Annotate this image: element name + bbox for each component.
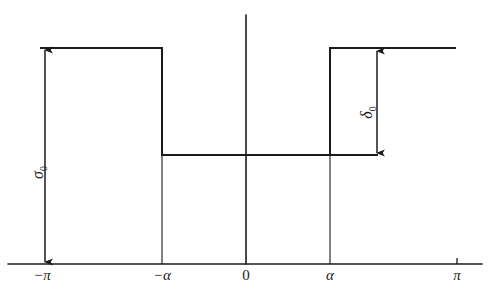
delta-zero-label: δ0	[359, 106, 378, 118]
sigma-zero-subscript: 0	[38, 166, 49, 171]
delta-zero-subscript: 0	[367, 106, 378, 111]
tick-label-minus-pi: −π	[33, 268, 51, 283]
sigma-zero-label: σ0	[30, 166, 49, 179]
sigma-zero-symbol: σ	[29, 171, 46, 179]
tick-label-minus-alpha: −α	[153, 268, 171, 283]
tick-label-alpha: α	[326, 268, 334, 283]
step-function-plot	[0, 0, 490, 297]
tick-label-zero: 0	[242, 268, 250, 283]
tick-label-pi: π	[453, 268, 461, 283]
delta-zero-symbol: δ	[358, 111, 375, 118]
figure-container: −π −α 0 α π σ0 δ0	[0, 0, 490, 297]
